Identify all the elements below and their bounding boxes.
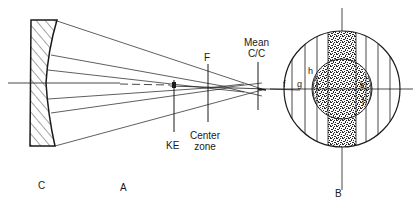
label-mean-cc: Mean C/C [244,37,269,59]
label-focus: F [204,52,210,63]
zone-label-f: f [283,79,286,90]
label-section-a: A [120,182,127,193]
label-center-zone: Center zone [190,130,220,152]
zone-label-h: h [308,66,313,77]
mean-cc-line1: Mean [244,37,269,48]
zone-label-g: g [297,79,302,90]
center-zone-line2: zone [190,141,220,152]
center-zone-line1: Center [190,130,220,141]
zone-label-i: i [316,80,318,91]
light-rays [48,21,262,146]
mean-cc-line2: C/C [244,48,269,59]
label-knife-edge: KE [166,140,179,151]
zone-label-k: k [360,80,365,91]
label-section-b: B [335,188,342,199]
label-mirror-c: C [38,180,45,191]
foucault-pattern [270,8,413,190]
optics-diagram [0,0,415,206]
zone-label-j: j [362,96,364,107]
